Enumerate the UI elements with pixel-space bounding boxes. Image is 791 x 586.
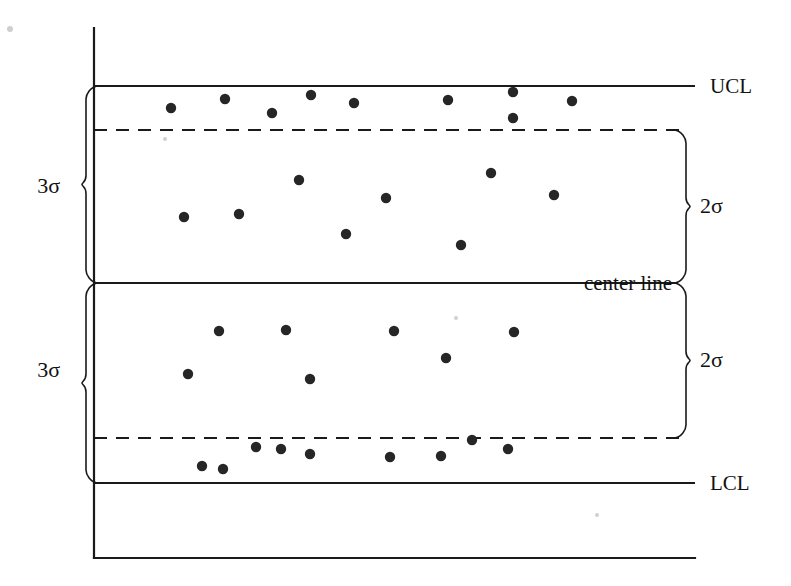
data-point xyxy=(549,190,559,200)
data-point xyxy=(197,461,207,471)
bracket-label-3sigma-upper: 3σ xyxy=(37,173,60,198)
data-point xyxy=(467,435,477,445)
data-point xyxy=(220,94,230,104)
bracket-label-2sigma-lower: 2σ xyxy=(700,347,723,372)
data-point xyxy=(305,374,315,384)
data-point xyxy=(341,229,351,239)
data-point xyxy=(234,209,244,219)
data-point xyxy=(306,90,316,100)
data-point xyxy=(349,98,359,108)
bracket-label-3sigma-lower: 3σ xyxy=(37,357,60,382)
data-point xyxy=(251,442,261,452)
data-point xyxy=(267,108,277,118)
data-point xyxy=(389,326,399,336)
data-point xyxy=(214,326,224,336)
data-point xyxy=(441,353,451,363)
bracket-label-2sigma-upper: 2σ xyxy=(700,193,723,218)
data-point xyxy=(509,327,519,337)
ucl-label: UCL xyxy=(710,74,752,98)
figure-background xyxy=(0,0,791,586)
data-point xyxy=(179,212,189,222)
scan-speck xyxy=(595,513,599,517)
data-point xyxy=(381,193,391,203)
data-point xyxy=(305,449,315,459)
data-point xyxy=(456,240,466,250)
data-point xyxy=(436,451,446,461)
scan-speck xyxy=(163,137,167,141)
control-chart-canvas: UCL LCL center line 3σ3σ2σ2σ xyxy=(0,0,791,586)
data-point xyxy=(443,95,453,105)
data-point xyxy=(567,96,577,106)
data-point xyxy=(183,369,193,379)
scan-speck xyxy=(7,26,13,32)
data-point xyxy=(276,444,286,454)
data-point xyxy=(218,464,228,474)
scan-speck xyxy=(454,316,458,320)
data-point xyxy=(486,168,496,178)
data-point xyxy=(294,175,304,185)
data-point xyxy=(508,87,518,97)
data-point xyxy=(503,444,513,454)
data-point xyxy=(508,113,518,123)
data-point xyxy=(166,103,176,113)
lcl-label: LCL xyxy=(710,471,750,495)
data-point xyxy=(281,325,291,335)
data-point xyxy=(385,452,395,462)
control-chart-figure: UCL LCL center line 3σ3σ2σ2σ xyxy=(0,0,791,586)
center-line-label: center line xyxy=(584,271,672,295)
